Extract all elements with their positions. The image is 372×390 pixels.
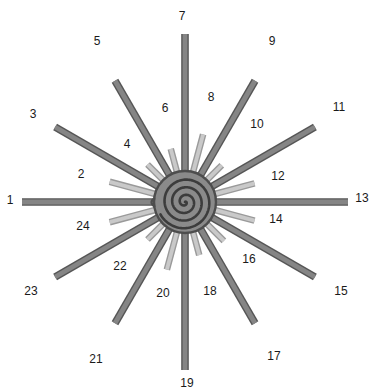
ray-label-8: 8	[208, 91, 215, 103]
ray-label-3: 3	[30, 108, 37, 120]
ray-label-7: 7	[179, 10, 186, 22]
diagram-canvas	[0, 0, 372, 390]
ray-label-16: 16	[242, 253, 255, 265]
ray-label-5: 5	[94, 35, 101, 47]
ray-label-15: 15	[334, 285, 347, 297]
ray-label-20: 20	[156, 287, 169, 299]
ray-label-13: 13	[355, 192, 368, 204]
ray-label-21: 21	[89, 353, 102, 365]
ray-label-23: 23	[24, 285, 37, 297]
ray-label-10: 10	[250, 118, 263, 130]
ray-label-2: 2	[78, 168, 85, 180]
ray-label-17: 17	[267, 350, 280, 362]
ray-label-12: 12	[271, 170, 284, 182]
ray-label-1: 1	[7, 194, 14, 206]
ray-label-9: 9	[269, 35, 276, 47]
ray-label-4: 4	[124, 138, 131, 150]
ray-label-22: 22	[113, 260, 126, 272]
ray-label-24: 24	[76, 220, 89, 232]
radial-spiral-diagram: 123456789101112131415161718192021222324	[0, 0, 372, 390]
ray-label-19: 19	[180, 377, 193, 389]
ray-label-14: 14	[269, 213, 282, 225]
ray-label-6: 6	[162, 102, 169, 114]
ray-label-11: 11	[333, 101, 345, 113]
ray-label-18: 18	[203, 285, 216, 297]
